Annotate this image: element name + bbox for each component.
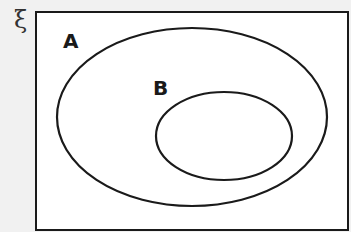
set-b-label: B	[153, 78, 168, 98]
set-b-ellipse	[156, 92, 292, 180]
venn-shapes	[0, 0, 351, 232]
set-a-label: A	[63, 31, 78, 51]
